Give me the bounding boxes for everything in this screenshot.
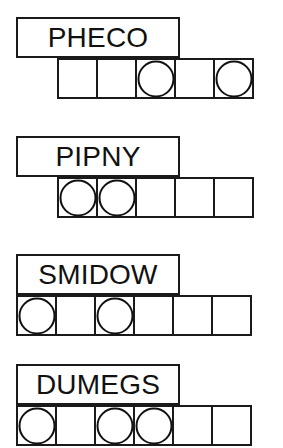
answer-letter-cell[interactable] [211, 295, 252, 336]
answer-cell-strip [57, 58, 254, 99]
scrambled-word-box: SMIDOW [16, 254, 180, 295]
puzzle-row: PIPNY [0, 136, 283, 218]
scrambled-word-text: PIPNY [18, 138, 178, 175]
answer-letter-cell[interactable] [55, 405, 96, 446]
answer-cell-strip [57, 177, 254, 218]
answer-letter-cell[interactable] [135, 58, 176, 99]
highlight-circle-icon [135, 407, 172, 444]
scrambled-word-box: DUMEGS [16, 364, 180, 405]
answer-letter-cell[interactable] [172, 295, 213, 336]
answer-letter-cell[interactable] [96, 58, 137, 99]
scrambled-word-box: PHECO [16, 17, 180, 58]
answer-letter-cell[interactable] [174, 177, 215, 218]
highlight-circle-icon [137, 60, 174, 97]
puzzle-sheet: PHECOPIPNYSMIDOWDUMEGS [0, 0, 283, 448]
highlight-circle-icon [98, 179, 135, 216]
scrambled-word-text: PHECO [18, 19, 178, 56]
puzzle-row: DUMEGS [0, 364, 283, 446]
answer-letter-cell[interactable] [96, 177, 137, 218]
puzzle-row: SMIDOW [0, 254, 283, 336]
highlight-circle-icon [18, 297, 55, 334]
answer-letter-cell[interactable] [213, 58, 254, 99]
highlight-circle-icon [96, 297, 133, 334]
answer-letter-cell[interactable] [16, 405, 57, 446]
answer-cell-strip [16, 405, 252, 446]
answer-letter-cell[interactable] [57, 58, 98, 99]
answer-letter-cell[interactable] [16, 295, 57, 336]
answer-letter-cell[interactable] [94, 405, 135, 446]
answer-letter-cell[interactable] [172, 405, 213, 446]
answer-letter-cell[interactable] [133, 405, 174, 446]
scrambled-word-box: PIPNY [16, 136, 180, 177]
answer-letter-cell[interactable] [135, 177, 176, 218]
answer-letter-cell[interactable] [174, 58, 215, 99]
highlight-circle-icon [96, 407, 133, 444]
highlight-circle-icon [18, 407, 55, 444]
highlight-circle-icon [215, 60, 252, 97]
answer-letter-cell[interactable] [55, 295, 96, 336]
answer-cell-strip [16, 295, 252, 336]
puzzle-row: PHECO [0, 17, 283, 99]
scrambled-word-text: SMIDOW [18, 256, 178, 293]
answer-letter-cell[interactable] [94, 295, 135, 336]
highlight-circle-icon [59, 179, 96, 216]
answer-letter-cell[interactable] [133, 295, 174, 336]
answer-letter-cell[interactable] [57, 177, 98, 218]
scrambled-word-text: DUMEGS [18, 366, 178, 403]
answer-letter-cell[interactable] [211, 405, 252, 446]
answer-letter-cell[interactable] [213, 177, 254, 218]
